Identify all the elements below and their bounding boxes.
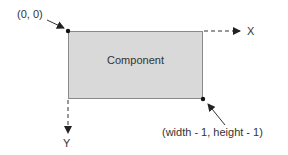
- y-axis-label: Y: [63, 138, 70, 149]
- x-axis-label: X: [247, 26, 254, 37]
- component-box: Component: [68, 31, 203, 99]
- component-label: Component: [69, 54, 202, 66]
- corner-label: (width - 1, height - 1): [162, 127, 263, 138]
- origin-pointer-arrow: [47, 20, 64, 28]
- corner-pointer-arrow: [208, 104, 225, 125]
- coordinate-diagram: Component (0, 0) X Y (width - 1, height …: [0, 0, 288, 155]
- origin-label: (0, 0): [17, 9, 43, 20]
